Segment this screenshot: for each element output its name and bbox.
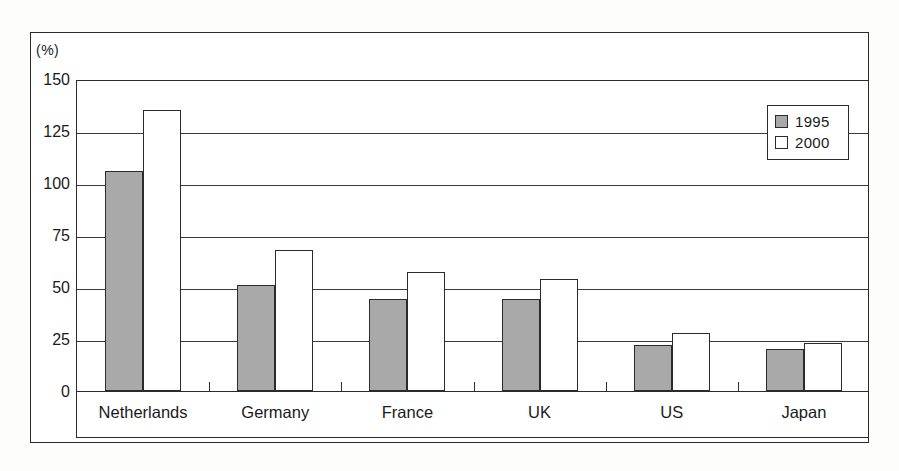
y-axis-unit-label: (%) <box>36 42 59 58</box>
bar-germany-2000 <box>275 250 313 391</box>
category-label-france: France <box>341 404 473 421</box>
bar-germany-1995 <box>237 285 275 391</box>
legend-swatch-2000-icon <box>775 136 788 149</box>
category-label-us: US <box>606 404 738 421</box>
legend-item-2000: 2000 <box>775 132 841 153</box>
category-label-japan: Japan <box>738 404 870 421</box>
bars-layer <box>77 81 868 391</box>
y-tick-label-50: 50 <box>28 280 70 296</box>
legend-label-1995: 1995 <box>795 114 830 129</box>
y-tick-label-100: 100 <box>28 176 70 192</box>
legend: 1995 2000 <box>767 105 849 160</box>
category-label-netherlands: Netherlands <box>77 404 209 421</box>
y-tick-label-25: 25 <box>28 332 70 348</box>
x-axis-category-band: NetherlandsGermanyFranceUKUSJapan <box>76 392 869 438</box>
category-label-germany: Germany <box>209 404 341 421</box>
legend-label-2000: 2000 <box>795 135 830 150</box>
x-axis-tick <box>474 382 475 391</box>
bar-us-1995 <box>634 345 672 391</box>
bar-netherlands-2000 <box>143 110 181 391</box>
bar-chart-figure: (%) 0255075100125150 1995 2000 Netherlan… <box>0 0 899 471</box>
x-axis-tick <box>606 382 607 391</box>
bar-us-2000 <box>672 333 710 391</box>
x-axis-tick <box>341 382 342 391</box>
bar-uk-1995 <box>502 299 540 391</box>
bar-japan-1995 <box>766 349 804 391</box>
x-axis-tick <box>209 382 210 391</box>
bar-netherlands-1995 <box>105 171 143 391</box>
category-label-uk: UK <box>474 404 606 421</box>
y-tick-label-75: 75 <box>28 228 70 244</box>
bar-france-1995 <box>369 299 407 391</box>
y-tick-label-125: 125 <box>28 124 70 140</box>
y-tick-label-150: 150 <box>28 72 70 88</box>
y-axis: 0255075100125150 <box>22 80 70 392</box>
legend-item-1995: 1995 <box>775 111 841 132</box>
bar-japan-2000 <box>804 343 842 391</box>
bar-france-2000 <box>407 272 445 391</box>
plot-area: 1995 2000 <box>76 80 869 392</box>
bar-uk-2000 <box>540 279 578 391</box>
x-axis-tick <box>738 382 739 391</box>
legend-swatch-1995-icon <box>775 115 788 128</box>
y-tick-label-0: 0 <box>28 384 70 400</box>
